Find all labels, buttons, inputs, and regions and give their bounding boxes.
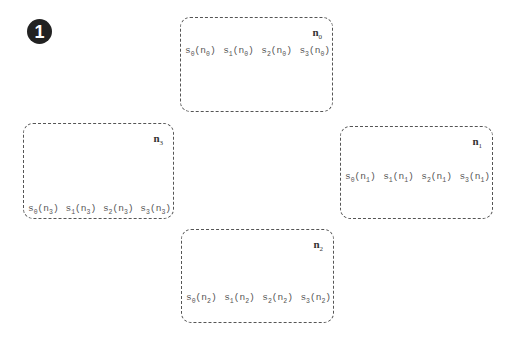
slot-argument-index: 2 [283, 298, 287, 305]
node-box-n0: n0s0(n0)s1(n0)s2(n0)s3(n0) [180, 17, 333, 112]
slot-argument-index: 2 [245, 298, 249, 305]
step-number: 1 [34, 23, 44, 41]
node-label-subscript: 3 [160, 139, 164, 147]
slot-entry: s3(n2) [300, 292, 331, 305]
node-label: n0 [312, 26, 322, 41]
node-label-subscript: 1 [479, 142, 483, 150]
slot-argument-index: 2 [321, 298, 325, 305]
slot-argument-index: 0 [244, 51, 248, 58]
slot-function-index: 0 [34, 209, 38, 216]
slot-entry: s2(n0) [261, 45, 292, 58]
node-label: n3 [153, 132, 163, 147]
node-label-subscript: 0 [319, 33, 323, 41]
slot-entry: s2(n2) [262, 292, 293, 305]
slot-argument-index: 1 [480, 177, 484, 184]
slot-entry: s3(n1) [459, 171, 490, 184]
slot-entry: s0(n1) [345, 171, 376, 184]
slot-argument-index: 1 [366, 177, 370, 184]
node-label: n1 [472, 135, 482, 150]
slot-entry: s2(n1) [421, 171, 452, 184]
slot-argument-index: 3 [86, 209, 90, 216]
node-box-n2: n2s0(n2)s1(n2)s2(n2)s3(n2) [181, 229, 334, 323]
slot-argument-index: 0 [320, 51, 324, 58]
slot-argument-index: 2 [207, 298, 211, 305]
slot-function-index: 2 [109, 209, 113, 216]
slot-entry: s1(n0) [223, 45, 254, 58]
slot-function-index: 1 [229, 51, 233, 58]
node-label-subscript: 2 [320, 245, 324, 253]
slot-function-index: 3 [305, 51, 309, 58]
slot-argument-index: 1 [442, 177, 446, 184]
slot-row: s0(n0)s1(n0)s2(n0)s3(n0) [185, 45, 330, 58]
slot-function-index: 1 [71, 209, 75, 216]
slot-argument-index: 3 [49, 209, 53, 216]
slot-argument-index: 0 [282, 51, 286, 58]
slot-function-index: 2 [427, 177, 431, 184]
slot-row: s0(n3)s1(n3)s2(n3)s3(n3) [28, 203, 171, 216]
slot-row: s0(n2)s1(n2)s2(n2)s3(n2) [186, 292, 331, 305]
slot-entry: s0(n2) [186, 292, 217, 305]
slot-argument-index: 1 [404, 177, 408, 184]
slot-function-index: 0 [192, 298, 196, 305]
slot-function-index: 2 [268, 298, 272, 305]
slot-entry: s0(n3) [28, 203, 59, 216]
slot-argument-index: 3 [124, 209, 128, 216]
slot-function-index: 3 [465, 177, 469, 184]
slot-function-index: 1 [389, 177, 393, 184]
slot-entry: s2(n3) [103, 203, 134, 216]
slot-entry: s1(n2) [224, 292, 255, 305]
slot-entry: s0(n0) [185, 45, 216, 58]
node-box-n1: n1s0(n1)s1(n1)s2(n1)s3(n1) [340, 126, 493, 219]
node-box-n3: n3s0(n3)s1(n3)s2(n3)s3(n3) [23, 123, 174, 219]
step-number-badge: 1 [27, 19, 52, 44]
slot-argument-index: 0 [206, 51, 210, 58]
slot-function-index: 3 [146, 209, 150, 216]
slot-entry: s1(n1) [383, 171, 414, 184]
slot-function-index: 0 [351, 177, 355, 184]
slot-function-index: 3 [306, 298, 310, 305]
slot-argument-index: 3 [161, 209, 165, 216]
slot-function-index: 0 [191, 51, 195, 58]
slot-entry: s3(n3) [140, 203, 171, 216]
slot-entry: s1(n3) [65, 203, 96, 216]
slot-entry: s3(n0) [299, 45, 330, 58]
slot-row: s0(n1)s1(n1)s2(n1)s3(n1) [345, 171, 490, 184]
node-label: n2 [313, 238, 323, 253]
slot-function-index: 1 [230, 298, 234, 305]
slot-function-index: 2 [267, 51, 271, 58]
